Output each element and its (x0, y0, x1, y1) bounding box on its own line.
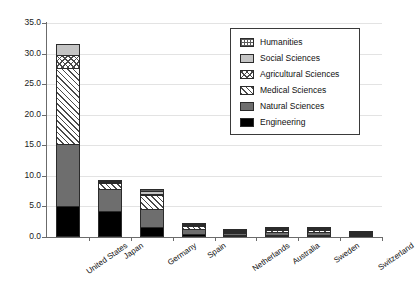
x-tick-mark (340, 237, 341, 241)
bar-segment[interactable] (265, 235, 289, 237)
y-tick-label: 10.0 (3, 171, 41, 180)
y-tick-label: 20.0 (3, 110, 41, 119)
bar-segment[interactable] (307, 235, 331, 237)
bar-stack[interactable] (182, 223, 206, 237)
x-axis-label: Sweden (332, 241, 361, 265)
legend-item[interactable]: Engineering (240, 116, 305, 128)
legend-swatch-icon (240, 102, 254, 111)
x-axis-label: Switzerland (377, 241, 416, 272)
legend-label: Natural Sciences (260, 102, 324, 111)
x-tick-mark (256, 237, 257, 241)
x-axis-line (46, 237, 382, 238)
legend-label: Agricultural Sciences (260, 70, 339, 79)
y-tick-label-wrap: 25.0 (0, 79, 41, 89)
x-tick-mark (89, 237, 90, 241)
bar-segment[interactable] (140, 209, 164, 227)
bar-stack[interactable] (265, 227, 289, 237)
bar-stack[interactable] (56, 44, 80, 237)
legend-swatch-icon (240, 86, 254, 95)
bar-segment[interactable] (223, 235, 247, 237)
y-tick-label-wrap: 15.0 (0, 140, 41, 150)
legend-item[interactable]: Medical Sciences (240, 84, 326, 96)
x-tick-mark (215, 237, 216, 241)
bar-stack[interactable] (349, 231, 373, 237)
bar-stack[interactable] (98, 180, 122, 237)
bar-segment[interactable] (349, 235, 373, 237)
legend-label: Social Sciences (260, 54, 320, 63)
y-tick-label-wrap: 5.0 (0, 201, 41, 211)
bar-segment[interactable] (140, 227, 164, 237)
x-tick-mark (382, 237, 383, 241)
legend-item[interactable]: Agricultural Sciences (240, 68, 339, 80)
y-tick-mark (42, 237, 47, 238)
legend-label: Engineering (260, 118, 305, 127)
legend-swatch-icon (240, 38, 254, 47)
y-tick-label-wrap: 0.0 (0, 232, 41, 242)
legend-item[interactable]: Natural Sciences (240, 100, 324, 112)
bar-segment[interactable] (98, 211, 122, 237)
y-tick-label-wrap: 35.0 (0, 18, 41, 28)
x-axis-label: United States (85, 241, 130, 276)
legend-label: Humanities (260, 38, 303, 47)
bar-segment[interactable] (182, 234, 206, 237)
legend-label: Medical Sciences (260, 86, 326, 95)
bar-segment[interactable] (56, 55, 80, 69)
x-tick-mark (298, 237, 299, 241)
y-tick-label: 0.0 (3, 232, 41, 241)
y-tick-label: 5.0 (3, 201, 41, 210)
legend-swatch-icon (240, 118, 254, 127)
x-axis-label: Australia (291, 241, 322, 266)
legend-swatch-icon (240, 54, 254, 63)
bar-segment[interactable] (98, 189, 122, 212)
bar-stack[interactable] (223, 229, 247, 237)
y-tick-label: 35.0 (3, 18, 41, 27)
legend-item[interactable]: Humanities (240, 36, 303, 48)
y-tick-label-wrap: 30.0 (0, 49, 41, 59)
x-axis-label: Spain (205, 241, 227, 260)
legend-swatch-icon (240, 70, 254, 79)
chart-legend: HumanitiesSocial SciencesAgricultural Sc… (230, 28, 360, 135)
x-tick-mark (173, 237, 174, 241)
y-tick-label: 30.0 (3, 49, 41, 58)
y-tick-label: 25.0 (3, 79, 41, 88)
y-tick-label-wrap: 10.0 (0, 171, 41, 181)
bar-stack[interactable] (307, 227, 331, 237)
y-tick-label-wrap: 20.0 (0, 110, 41, 120)
bar-segment[interactable] (56, 206, 80, 237)
bar-segment[interactable] (56, 68, 80, 146)
legend-item[interactable]: Social Sciences (240, 52, 320, 64)
bar-stack[interactable] (140, 189, 164, 237)
x-axis-label: Germany (166, 241, 198, 267)
x-axis-label: Netherlands (251, 241, 292, 273)
bar-segment[interactable] (140, 195, 164, 210)
bar-segment[interactable] (56, 144, 80, 207)
y-tick-label: 15.0 (3, 140, 41, 149)
x-tick-mark (131, 237, 132, 241)
